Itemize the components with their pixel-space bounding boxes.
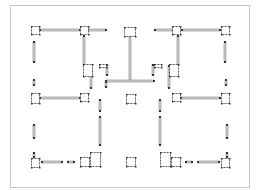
wall-segment <box>40 29 80 31</box>
segment-endpoint <box>224 61 226 63</box>
node-corner <box>39 34 41 36</box>
segment-endpoint <box>219 97 221 99</box>
segment-endpoint <box>218 161 220 163</box>
node-corner <box>31 34 33 36</box>
wall-segment <box>155 29 173 31</box>
column-node <box>125 28 136 37</box>
wall-segment <box>198 161 219 163</box>
column-node <box>222 159 230 168</box>
segment-endpoint <box>33 61 35 63</box>
wall-segment <box>182 29 220 31</box>
wall-segment <box>224 42 226 62</box>
segment-endpoint <box>106 74 108 76</box>
segment-endpoint <box>168 87 170 89</box>
node-corner <box>100 166 102 168</box>
segment-endpoint <box>67 161 69 163</box>
column-node <box>222 94 230 104</box>
node-corner <box>31 103 33 105</box>
segment-endpoint <box>73 161 75 163</box>
node-corner <box>31 167 33 169</box>
segment-endpoint <box>159 116 161 118</box>
segment-endpoint <box>99 144 101 146</box>
node-corner <box>88 34 90 36</box>
segment-endpoint <box>105 81 107 83</box>
column-node <box>91 153 101 167</box>
node-corner <box>229 93 231 95</box>
segment-endpoint <box>33 124 35 126</box>
node-corner <box>106 67 108 69</box>
node-corner <box>80 93 82 95</box>
node-corner <box>124 36 126 38</box>
segment-endpoint <box>159 144 161 146</box>
node-corner <box>229 103 231 105</box>
segment-endpoint <box>185 161 187 163</box>
node-corner <box>161 64 163 66</box>
node-corner <box>154 64 156 66</box>
wall-segment <box>88 29 106 31</box>
segment-endpoint <box>33 79 35 81</box>
node-corner <box>126 94 128 96</box>
node-corner <box>80 101 82 103</box>
segment-endpoint <box>226 156 228 158</box>
wall-segment <box>152 65 154 75</box>
node-corner <box>180 93 182 95</box>
segment-endpoint <box>152 74 154 76</box>
column-node <box>84 65 93 77</box>
node-corner <box>180 26 182 28</box>
segment-endpoint <box>191 161 193 163</box>
node-corner <box>221 34 223 36</box>
node-corner <box>172 93 174 95</box>
node-corner <box>88 26 90 28</box>
node-corner <box>180 101 182 103</box>
wall-segment <box>99 100 101 111</box>
column-node <box>173 27 181 35</box>
segment-endpoint <box>225 84 227 86</box>
segment-endpoint <box>153 80 155 82</box>
segment-endpoint <box>99 116 101 118</box>
wall-segment <box>40 97 80 99</box>
wall-segment <box>33 125 35 138</box>
node-corner <box>221 158 223 160</box>
wall-segment <box>177 36 179 65</box>
wall-segment <box>99 117 101 145</box>
segment-endpoint <box>33 41 35 43</box>
node-corner <box>169 76 171 78</box>
column-node <box>81 94 89 102</box>
node-corner <box>135 157 137 159</box>
segment-endpoint <box>83 35 85 37</box>
node-corner <box>172 34 174 36</box>
wall-segment <box>33 42 35 62</box>
node-corner <box>92 76 94 78</box>
node-corner <box>221 93 223 95</box>
node-corner <box>126 157 128 159</box>
node-corner <box>39 26 41 28</box>
node-corner <box>178 76 180 78</box>
node-corner <box>135 166 137 168</box>
segment-endpoint <box>197 161 199 163</box>
node-corner <box>88 101 90 103</box>
floor-plan-diagram <box>0 0 260 190</box>
node-corner <box>169 64 171 66</box>
segment-endpoint <box>152 64 154 66</box>
segment-endpoint <box>33 84 35 86</box>
node-corner <box>180 157 182 159</box>
segment-endpoint <box>33 156 35 158</box>
node-corner <box>99 64 101 66</box>
segment-endpoint <box>99 99 101 101</box>
node-corner <box>160 166 162 168</box>
segment-endpoint <box>224 41 226 43</box>
node-corner <box>80 166 82 168</box>
column-node <box>32 159 40 168</box>
node-corner <box>100 152 102 154</box>
node-corner <box>221 26 223 28</box>
node-corner <box>229 26 231 28</box>
node-corner <box>39 158 41 160</box>
column-node <box>170 65 179 77</box>
node-corner <box>80 34 82 36</box>
column-node <box>127 158 136 167</box>
node-corner <box>154 67 156 69</box>
segment-endpoint <box>181 29 183 31</box>
node-corner <box>229 34 231 36</box>
node-corner <box>39 103 41 105</box>
segment-endpoint <box>105 29 107 31</box>
